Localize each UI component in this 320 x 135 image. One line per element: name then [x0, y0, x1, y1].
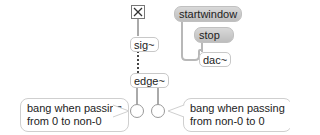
comment-left-line2: from 0 to non-0: [27, 115, 122, 128]
comment-right-pointer: [166, 104, 184, 118]
sig-object[interactable]: sig~: [130, 37, 159, 52]
bang-left[interactable]: [130, 104, 144, 118]
comment-left-line1: bang when passing: [27, 102, 122, 115]
dac-object[interactable]: dac~: [199, 52, 231, 67]
comment-right: bang when passing from non-0 to 0: [183, 98, 290, 132]
comment-right-line2: from non-0 to 0: [190, 115, 285, 128]
edge-object[interactable]: edge~: [130, 73, 169, 88]
comment-right-line1: bang when passing: [190, 102, 285, 115]
toggle-x-icon: [132, 6, 144, 18]
stop-message[interactable]: stop: [194, 27, 234, 43]
bang-right[interactable]: [151, 104, 165, 118]
toggle[interactable]: [131, 5, 145, 19]
startwindow-message[interactable]: startwindow: [174, 6, 242, 22]
comment-left-pointer: [113, 104, 131, 118]
